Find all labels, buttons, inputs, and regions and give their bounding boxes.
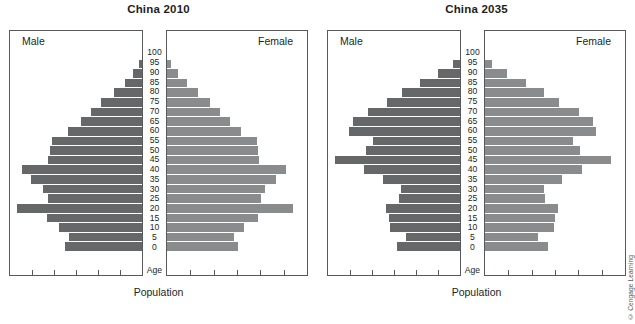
axis-tick-mark [284,270,285,276]
axis-tick-mark [394,270,395,276]
bar-row [10,145,142,155]
male-bar [52,136,142,146]
age-tick-label: 50 [143,145,166,155]
age-tick-label: 90 [143,67,166,77]
male-bar [69,232,142,242]
bar-row [328,155,460,165]
female-bar [167,97,210,107]
bar-row [328,174,460,184]
age-tick-label: 40 [461,165,484,175]
panel-china-2010: China 2010 Male 051015202530354045505560… [0,0,317,324]
male-bar [373,136,460,146]
axis-tick-mark [237,270,238,276]
bar-row [485,145,625,155]
bar-row [485,213,625,223]
axis-tick-mark [372,270,373,276]
bar-row [328,87,460,97]
bar-row [167,68,307,78]
age-tick-label: 35 [461,174,484,184]
male-plot-2010: Male [9,30,143,276]
bar-row [167,145,307,155]
female-bar [485,136,573,146]
bar-row [328,97,460,107]
bar-row [328,116,460,126]
female-bar [485,97,559,107]
male-bar [438,68,460,78]
male-bar [68,126,142,136]
age-tick-label: 40 [143,165,166,175]
age-caption-2010: Age [143,265,166,275]
male-bar [65,241,142,251]
female-bar [485,78,526,88]
bar-row [485,174,625,184]
male-bar [420,78,460,88]
age-tick-label: 95 [461,58,484,68]
bar-row [10,78,142,88]
bar-row [10,126,142,136]
female-bar [485,241,548,251]
age-tick-label: 85 [143,77,166,87]
age-tick-label: 65 [461,116,484,126]
bar-row [328,59,460,69]
bar-row [167,107,307,117]
bar-row [10,116,142,126]
female-bar [485,164,582,174]
age-tick-label: 25 [461,194,484,204]
bar-row [167,155,307,165]
male-bar [335,155,460,165]
bar-row [10,68,142,78]
male-bar [399,193,460,203]
bar-row [328,184,460,194]
bar-row [10,107,142,117]
male-axis-ticks-2010 [10,270,142,276]
bar-row [10,213,142,223]
bar-row [485,97,625,107]
female-axis-label-2035: Female [576,35,611,47]
female-bar [167,87,198,97]
age-axis-2035: 0510152025303540455055606570758085909510… [461,30,484,276]
bar-row [328,193,460,203]
male-bar [43,184,142,194]
female-bar [485,116,593,126]
axis-tick-mark [32,270,33,276]
bar-row [10,222,142,232]
age-tick-label: 45 [143,155,166,165]
bar-row [485,155,625,165]
age-tick-label: 20 [461,203,484,213]
male-bar [139,59,142,69]
age-tick-label: 0 [461,242,484,252]
age-tick-label: 15 [461,213,484,223]
age-tick-label: 75 [461,97,484,107]
male-bar [397,241,460,251]
male-bar [91,107,142,117]
female-bar [167,145,258,155]
age-tick-label: 50 [461,145,484,155]
age-tick-label: 75 [143,97,166,107]
bar-row [485,59,625,69]
bar-row [167,49,307,59]
axis-tick-mark [76,270,77,276]
axis-tick-mark [438,270,439,276]
bar-row [485,203,625,213]
bar-row [10,59,142,69]
male-bar [59,222,142,232]
bar-row [167,116,307,126]
female-bar [167,193,261,203]
female-bar [167,78,187,88]
male-bar [390,222,460,232]
female-bar [485,68,507,78]
female-bar [485,59,492,69]
female-bar [167,155,259,165]
bar-row [328,78,460,88]
male-bar [22,164,142,174]
bar-row [328,232,460,242]
bar-row [167,174,307,184]
female-bar [167,116,230,126]
male-bar [368,107,460,117]
age-tick-label: 95 [143,58,166,68]
axis-tick-mark [350,270,351,276]
age-tick-label: 20 [143,203,166,213]
female-bar [485,222,554,232]
axis-tick-mark [602,270,603,276]
bar-row [10,174,142,184]
